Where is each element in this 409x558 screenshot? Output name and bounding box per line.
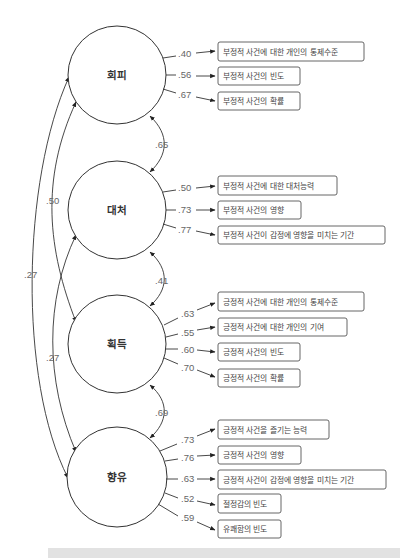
loading-line: [164, 318, 178, 325]
indicator-label: 부정적 사건이 감정에 영향을 미치는 기간: [223, 230, 354, 240]
loading-value: .63: [181, 473, 194, 484]
corr-value-acquire-savor: .69: [155, 407, 168, 418]
loading-value: .77: [178, 224, 191, 235]
loading-value: .50: [178, 182, 191, 193]
loading-value: .70: [181, 362, 194, 373]
loading-value: .63: [181, 308, 194, 319]
indicators-cope: .50 부정적 사건에 대한 대처능력 .73 부정적 사건의 영향 .77 부…: [163, 176, 385, 244]
factor-avoid: 회피: [68, 26, 166, 124]
indicator-label: 부정적 사건의 영향: [223, 205, 284, 215]
factor-savor: 향유: [67, 427, 167, 527]
sem-diagram: .65 .41 .69 .50 .27 .27 회피 대처 획득 향유 .40 …: [0, 0, 409, 558]
corr-value-cope-acquire: .41: [155, 275, 168, 286]
factor-label: 대처: [107, 204, 127, 216]
indicator-label: 절정감의 빈도: [223, 499, 267, 509]
corr-value-avoid-acquire: .50: [46, 195, 59, 206]
corr-value-avoid-cope: .65: [155, 139, 168, 150]
factor-cope: 대처: [68, 161, 166, 259]
loading-line: [163, 56, 176, 58]
loading-arrow: [197, 350, 215, 352]
indicator-label: 긍정적 사건의 영향: [223, 450, 284, 460]
indicator-label: 긍정적 사건이 감정에 영향을 미치는 기간: [223, 475, 354, 485]
loading-value: .59: [181, 512, 194, 523]
indicator-label: 긍정적 사건에 대한 개인의 기여: [223, 322, 324, 332]
indicators-avoid: .40 부정적 사건에 대한 개인의 통제수준 .56 부정적 사건의 빈도 .…: [163, 42, 364, 110]
loading-arrow: [197, 303, 215, 310]
loading-value: .73: [181, 434, 194, 445]
loading-arrow: [197, 455, 215, 456]
factor-acquire: 획득: [68, 295, 166, 393]
loading-line: [165, 493, 178, 498]
indicator-label: 부정적 사건의 빈도: [223, 71, 284, 81]
loading-value: .52: [181, 493, 194, 504]
indicators-savor: .73 긍정적 사건을 즐기는 능력 .76 긍정적 사건의 영향 .63 긍정…: [158, 420, 386, 538]
indicator-label: 긍정적 사건을 즐기는 능력: [223, 425, 307, 435]
indicator-label: 부정적 사건에 대한 개인의 통제수준: [223, 47, 338, 57]
loading-line: [165, 459, 178, 461]
loading-value: .67: [178, 89, 191, 100]
corr-value-cope-savor: .27: [46, 352, 59, 363]
loading-value: .55: [181, 327, 194, 338]
loading-value: .73: [178, 204, 191, 215]
indicator-label: 부정적 사건에 대한 대처능력: [223, 181, 314, 191]
indicator-label: 긍정적 사건에 대한 개인의 통제수준: [223, 297, 338, 307]
loading-arrow: [197, 522, 215, 530]
loading-line: [163, 224, 176, 228]
correlation-arcs-left: [32, 77, 76, 478]
loading-arrow: [197, 327, 215, 330]
loading-value: .56: [178, 69, 191, 80]
loading-line: [163, 89, 176, 93]
loading-line: [158, 504, 178, 516]
loading-arrow: [197, 501, 215, 505]
loading-line: [160, 444, 177, 451]
indicator-label: 긍정적 사건의 빈도: [223, 347, 284, 357]
indicator-label: 부정적 사건의 확률: [223, 96, 284, 106]
factor-label: 획득: [107, 338, 127, 350]
caption-bar: [48, 548, 400, 558]
indicator-label: 긍정적 사건의 확률: [223, 373, 284, 383]
loading-arrow: [196, 97, 215, 101]
loading-arrow: [196, 186, 215, 188]
loading-value: .60: [181, 344, 194, 355]
loading-arrow: [197, 429, 215, 436]
corr-value-avoid-savor: .27: [24, 269, 37, 280]
loading-arrow: [196, 231, 215, 235]
loading-line: [163, 190, 176, 192]
factor-label: 회피: [107, 69, 127, 81]
indicator-label: 유쾌함의 빈도: [223, 524, 267, 534]
loading-arrow: [197, 370, 215, 377]
loading-value: .40: [178, 48, 191, 59]
indicators-acquire: .63 긍정적 사건에 대한 개인의 통제수준 .55 긍정적 사건에 대한 개…: [164, 292, 364, 387]
loading-line: [166, 334, 178, 337]
factor-label: 향유: [107, 471, 127, 483]
loading-line: [164, 358, 178, 364]
loading-value: .76: [181, 452, 194, 463]
loading-arrow: [196, 51, 215, 53]
